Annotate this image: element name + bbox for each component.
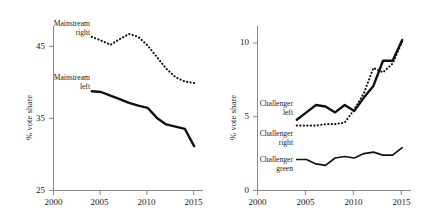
annotation-challenger-left: Challenger left bbox=[229, 99, 293, 117]
series-line-challenger-green bbox=[297, 148, 402, 166]
mainstream-xtick-label-2005: 2005 bbox=[82, 197, 117, 207]
annotation-challenger-green-line2: green bbox=[229, 164, 293, 173]
series-line-challenger-right bbox=[297, 42, 402, 126]
challenger-ytick-label-0: 0 bbox=[230, 185, 249, 195]
mainstream-xtick-label-2015: 2015 bbox=[176, 197, 211, 207]
annotation-mainstream-right: Mainstream right bbox=[26, 19, 90, 37]
series-line-mainstream-right bbox=[92, 34, 194, 83]
chart-panel-mainstream: % vote share 45 35 25 2000 2005 2010 201… bbox=[0, 0, 212, 222]
challenger-xtick-label-2005: 2005 bbox=[288, 197, 323, 207]
annotation-mainstream-left: Mainstream left bbox=[26, 73, 90, 91]
annotation-challenger-green: Challenger green bbox=[229, 155, 293, 173]
mainstream-ytick-label-45: 45 bbox=[26, 41, 45, 51]
annotation-challenger-green-line1: Challenger bbox=[229, 155, 293, 164]
challenger-xtick-label-2000: 2000 bbox=[240, 197, 275, 207]
challenger-ytick-label-10: 10 bbox=[230, 37, 249, 47]
annotation-mainstream-right-line2: right bbox=[26, 28, 90, 37]
series-line-mainstream-left bbox=[92, 91, 194, 146]
challenger-xtick-label-2015: 2015 bbox=[384, 197, 419, 207]
mainstream-xtick-label-2000: 2000 bbox=[36, 197, 71, 207]
annotation-challenger-left-line1: Challenger bbox=[229, 99, 293, 108]
figure-two-panel-vote-share: % vote share 45 35 25 2000 2005 2010 201… bbox=[0, 0, 424, 222]
annotation-mainstream-left-line2: left bbox=[26, 82, 90, 91]
annotation-challenger-right-line1: Challenger bbox=[229, 129, 293, 138]
chart-panel-challenger: % vote share 10 5 0 2000 2005 2010 2015 … bbox=[212, 0, 424, 222]
annotation-challenger-right-line2: right bbox=[229, 138, 293, 147]
annotation-challenger-right: Challenger right bbox=[229, 129, 293, 147]
annotation-mainstream-right-line1: Mainstream bbox=[26, 19, 90, 28]
annotation-mainstream-left-line1: Mainstream bbox=[26, 73, 90, 82]
mainstream-xtick-label-2010: 2010 bbox=[129, 197, 164, 207]
mainstream-ytick-label-35: 35 bbox=[26, 113, 45, 123]
annotation-challenger-left-line2: left bbox=[229, 108, 293, 117]
challenger-xtick-label-2010: 2010 bbox=[336, 197, 371, 207]
series-line-challenger-left bbox=[297, 40, 402, 120]
mainstream-ytick-label-25: 25 bbox=[26, 185, 45, 195]
